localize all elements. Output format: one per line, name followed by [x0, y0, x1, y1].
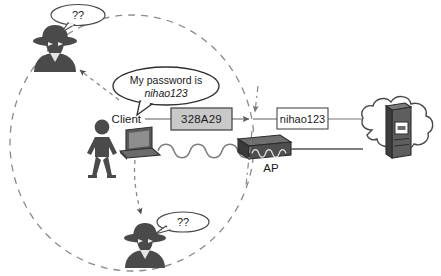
access-point-label: AP [263, 162, 279, 174]
client-speech-line1: My password is [130, 74, 202, 86]
client-speech-line2: nihao123 [144, 87, 187, 99]
encrypted-data-box: 328A29 [171, 108, 232, 130]
attacker-top-label: ?? [72, 9, 84, 21]
diagram-canvas: ?? ?? [0, 0, 441, 276]
attacker-bottom-label: ?? [177, 216, 189, 228]
plaintext-data-box: nihao123 [277, 108, 328, 129]
server [386, 103, 411, 158]
plaintext-data-value: nihao123 [280, 113, 325, 125]
encrypted-data-value: 328A29 [181, 113, 222, 125]
